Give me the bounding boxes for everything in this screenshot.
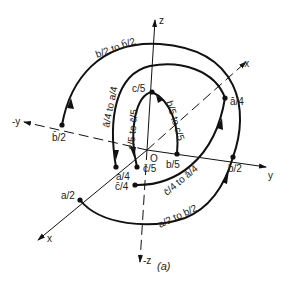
point-bbar2 (59, 122, 64, 127)
point-a2 (77, 197, 82, 202)
label-path-abar4-to-a4: ā/4 to a/4 (100, 85, 120, 129)
z-axis-label: z (159, 15, 164, 26)
label-cbar5: c̄/5 (143, 163, 157, 174)
point-c5 (149, 89, 154, 94)
paths (62, 44, 240, 225)
z-axis (147, 20, 155, 150)
point-a4 (113, 164, 118, 169)
label-a2: a/2 (61, 190, 75, 201)
point-b5 (174, 151, 179, 156)
label-cbar4: c̄/4 (115, 181, 129, 192)
y-axis (147, 150, 266, 167)
point-cbar4 (132, 182, 137, 187)
stereographic-path-diagram: z -z y -y x -x O b̄/2 a/2 a/4 c/5 b/5 ā/… (0, 0, 297, 292)
point-abar4 (222, 95, 227, 100)
label-path-b5-to-c5: b/5 to c/5 (164, 99, 187, 142)
label-b5: b/5 (166, 159, 180, 170)
x-axis (38, 150, 147, 240)
path-a2-to-b2 (80, 157, 233, 224)
neg-x-axis-label: -x (241, 58, 249, 69)
y-axis-label: y (268, 170, 273, 181)
figure-caption: (a) (157, 260, 171, 272)
neg-z-axis-label: -z (143, 255, 151, 266)
label-abar4: ā/4 (230, 96, 244, 107)
label-c5: c/5 (132, 83, 146, 94)
x-axis-label: x (47, 233, 52, 244)
label-bbar2: b̄/2 (52, 131, 66, 143)
label-path-c5-to-cbar5: c/5 to c̄/5 (125, 108, 140, 150)
neg-y-axis-label: -y (12, 116, 20, 127)
point-cbar5 (134, 164, 139, 169)
label-path-b2-to-bbar2: b/2 to b̄/2 (94, 35, 138, 60)
label-b2: b/2 (228, 163, 242, 174)
point-b2 (230, 154, 235, 159)
label-path-a2-to-b2: a/2 to b/2 (156, 202, 199, 230)
path-b2-to-bbar2 (62, 44, 240, 157)
